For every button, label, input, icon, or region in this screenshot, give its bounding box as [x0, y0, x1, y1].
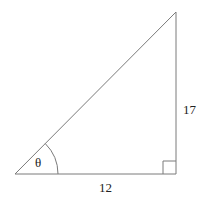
angle-label: θ	[35, 155, 41, 170]
angle-arc	[45, 144, 58, 174]
right-angle-marker	[163, 161, 176, 174]
vertical-side-label: 17	[183, 102, 197, 117]
hypotenuse	[15, 12, 176, 174]
right-triangle-diagram: θ 17 12	[0, 0, 204, 205]
horizontal-side-label: 12	[99, 180, 112, 195]
